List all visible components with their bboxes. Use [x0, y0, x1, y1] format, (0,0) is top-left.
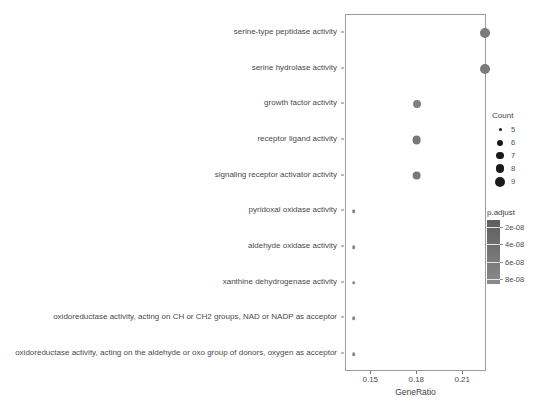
data-point[interactable]: [413, 100, 421, 108]
legend-count-dot: [492, 128, 508, 131]
legend-padjust-title: p.adjust: [487, 208, 515, 217]
data-point[interactable]: [352, 352, 356, 356]
data-point[interactable]: [352, 245, 356, 249]
y-axis-tick: [341, 317, 344, 318]
colorbar-gradient: [487, 220, 500, 284]
legend-count: Count 56789: [492, 111, 515, 188]
y-axis-label: aldehyde oxidase activity: [248, 241, 341, 251]
legend-count-dot: [492, 164, 508, 173]
colorbar-tick: [487, 279, 500, 280]
y-axis-label: growth factor activity: [264, 98, 341, 108]
colorbar-tick-mark: [500, 244, 503, 245]
data-point[interactable]: [412, 136, 421, 145]
colorbar-tick: [487, 262, 500, 263]
colorbar-tick-label: 4e-08: [505, 240, 524, 249]
colorbar-tick-mark: [500, 279, 503, 280]
y-axis-tick: [341, 210, 344, 211]
data-point[interactable]: [352, 210, 356, 214]
legend-count-label: 8: [511, 164, 515, 173]
legend-count-title: Count: [492, 111, 515, 120]
y-axis-label: serine-type peptidase activity: [234, 27, 341, 37]
y-axis-tick: [341, 31, 344, 32]
legend-padjust-colorbar: 2e-084e-086e-088e-08: [487, 220, 500, 284]
y-axis-label: serine hydrolase activity: [252, 63, 341, 73]
colorbar-tick-mark: [500, 227, 503, 228]
data-point[interactable]: [352, 281, 356, 285]
legend-count-dot: [492, 177, 508, 187]
plot-panel: [345, 14, 486, 371]
legend-count-item: 9: [492, 175, 515, 188]
y-axis-label: pyridoxal oxidase activity: [249, 205, 341, 215]
y-axis-label: oxidoreductase activity, acting on CH or…: [53, 312, 341, 322]
y-axis-tick: [341, 67, 344, 68]
data-point[interactable]: [412, 171, 421, 180]
legend-count-label: 9: [511, 177, 515, 186]
legend-count-dot: [492, 140, 508, 146]
legend-count-item: 8: [492, 162, 515, 175]
colorbar-tick: [487, 244, 500, 245]
y-axis-tick: [341, 138, 344, 139]
legend-count-label: 7: [511, 151, 515, 160]
legend-count-label: 5: [511, 125, 515, 134]
y-axis-label: xanthine dehydrogenase activity: [223, 277, 341, 287]
legend-count-item: 7: [492, 149, 515, 162]
legend-padjust: p.adjust 2e-084e-086e-088e-08: [487, 208, 515, 284]
y-axis-tick: [341, 103, 344, 104]
y-axis-labels: serine-type peptidase activityserine hyd…: [0, 14, 341, 371]
x-axis-tick: [462, 371, 463, 374]
colorbar-tick-label: 6e-08: [505, 257, 524, 266]
data-point[interactable]: [352, 317, 356, 321]
colorbar-tick-label: 8e-08: [505, 274, 524, 283]
colorbar-tick: [487, 227, 500, 228]
y-axis-tick: [341, 246, 344, 247]
x-axis-title: GeneRatio: [345, 387, 486, 397]
colorbar-tick-label: 2e-08: [505, 222, 524, 231]
x-axis-tick-label: 0.18: [408, 375, 424, 384]
y-axis-label: receptor ligand activity: [257, 134, 341, 144]
legend-count-item: 5: [492, 123, 515, 136]
data-point[interactable]: [480, 28, 490, 38]
legend-count-label: 6: [511, 138, 515, 147]
y-axis-tick: [341, 353, 344, 354]
y-axis-tick: [341, 174, 344, 175]
y-axis-label: signaling receptor activator activity: [215, 170, 341, 180]
x-axis-tick: [416, 371, 417, 374]
legend-count-items: 56789: [492, 123, 515, 188]
dotplot-figure: serine-type peptidase activityserine hyd…: [0, 0, 538, 419]
legend-count-item: 6: [492, 136, 515, 149]
colorbar-tick-mark: [500, 262, 503, 263]
y-axis-tick: [341, 281, 344, 282]
x-axis-tick: [370, 371, 371, 374]
legend-count-dot: [492, 152, 508, 159]
data-point[interactable]: [480, 64, 490, 74]
y-axis-label: oxidoreductase activity, acting on the a…: [15, 348, 341, 358]
x-axis-tick-label: 0.15: [362, 375, 378, 384]
x-axis-tick-label: 0.21: [454, 375, 470, 384]
